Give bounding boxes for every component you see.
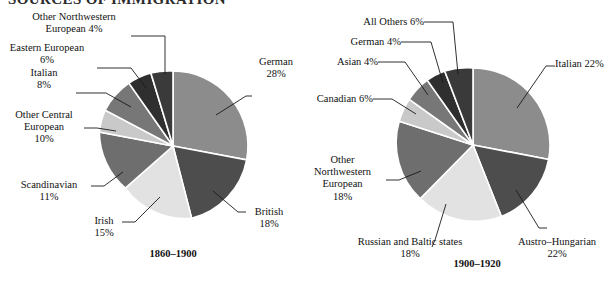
left-label-eastern-european-percent: 6% <box>0 54 98 66</box>
left-leader-other-northwestern <box>131 36 165 74</box>
left-label-british-name: British <box>246 206 292 218</box>
left-label-irish-percent: 15% <box>86 227 122 239</box>
figure-sources-of-immigration: SOURCES OF IMMIGRATION <box>0 0 610 285</box>
left-label-german-name: German <box>251 56 301 68</box>
right-label-austro-hungarian-name: Austro–Hungarian <box>506 236 608 248</box>
left-label-british-percent: 18% <box>246 218 292 230</box>
right-label-russian-baltic: Russian and Baltic states 18% <box>330 236 490 260</box>
left-chart-caption: 1860–1900 <box>133 248 213 259</box>
right-label-german: German 4% <box>325 36 401 48</box>
left-label-irish: Irish 15% <box>86 215 122 239</box>
left-label-italian-percent: 8% <box>14 79 74 91</box>
left-label-irish-name: Irish <box>86 215 122 227</box>
right-label-other-northwestern-european-line3: European <box>299 178 386 190</box>
left-slice-german <box>173 71 248 160</box>
right-label-asian: Asian 4% <box>310 56 378 68</box>
left-pie <box>76 36 252 222</box>
left-label-italian: Italian 8% <box>14 67 74 91</box>
right-label-russian-baltic-name: Russian and Baltic states <box>330 236 490 248</box>
right-label-other-northwestern-european-line1: Other <box>299 154 386 166</box>
right-label-other-northwestern-european: Other Northwestern European 18% <box>299 154 386 203</box>
left-label-italian-name: Italian <box>14 67 74 79</box>
right-chart-caption: 1900–1920 <box>437 258 517 269</box>
right-pie <box>373 22 555 247</box>
right-label-all-others: All Others 6% <box>324 16 424 28</box>
right-label-italian: Italian 22% <box>555 58 610 70</box>
left-label-german: German 28% <box>251 56 301 80</box>
left-label-other-northwestern-european: Other Northwestern European 4% <box>14 11 134 35</box>
left-label-other-central-european-line2: European <box>4 121 84 133</box>
right-label-canadian: Canadian 6% <box>288 93 373 105</box>
right-label-other-northwestern-european-percent: 18% <box>299 191 386 203</box>
left-label-british: British 18% <box>246 206 292 230</box>
left-label-scandinavian: Scandinavian 11% <box>8 179 90 203</box>
right-slice-italian <box>473 68 550 159</box>
right-label-other-northwestern-european-line2: Northwestern <box>299 166 386 178</box>
left-label-german-percent: 28% <box>251 68 301 80</box>
left-label-other-central-european-line1: Other Central <box>4 109 84 121</box>
left-label-other-central-european-percent: 10% <box>4 133 84 145</box>
right-label-austro-hungarian-percent: 22% <box>506 248 608 260</box>
right-leader-all-others <box>424 22 458 74</box>
left-label-other-northwestern-european-line1: Other Northwestern <box>14 11 134 23</box>
right-label-austro-hungarian: Austro–Hungarian 22% <box>506 236 608 260</box>
left-label-scandinavian-percent: 11% <box>8 191 90 203</box>
left-label-eastern-european-name: Eastern European <box>0 42 98 54</box>
left-label-scandinavian-name: Scandinavian <box>8 179 90 191</box>
left-label-other-northwestern-european-line2: European 4% <box>14 23 134 35</box>
left-label-eastern-european: Eastern European 6% <box>0 42 98 66</box>
left-label-other-central-european: Other Central European 10% <box>4 109 84 146</box>
